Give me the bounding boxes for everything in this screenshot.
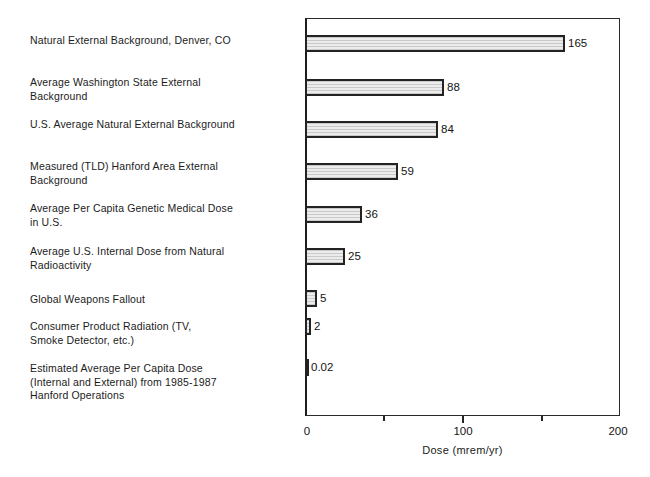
x-tick-label-0: 0 <box>304 424 310 438</box>
bar-7[interactable] <box>305 318 311 335</box>
bar-value-4: 36 <box>365 207 378 222</box>
bar-value-5: 25 <box>348 249 361 264</box>
category-label-7: Consumer Product Radiation (TV, Smoke De… <box>30 320 292 347</box>
bar-value-8: 0.02 <box>311 360 333 375</box>
bar-2[interactable] <box>305 121 438 138</box>
category-label-3: Measured (TLD) Hanford Area External Bac… <box>30 160 292 187</box>
x-axis-tick-labels: 0 100 200 <box>305 424 620 440</box>
category-label-2: U.S. Average Natural External Background <box>30 118 292 132</box>
x-tick-label-100: 100 <box>453 424 472 438</box>
bar-value-1: 88 <box>447 80 460 95</box>
bar-value-3: 59 <box>401 164 414 179</box>
category-label-5: Average U.S. Internal Dose from Natural … <box>30 245 292 272</box>
category-label-6: Global Weapons Fallout <box>30 293 292 307</box>
bar-6[interactable] <box>305 290 317 307</box>
x-axis-ticks <box>305 416 620 423</box>
bar-value-7: 2 <box>314 319 320 334</box>
bar-value-2: 84 <box>441 122 454 137</box>
x-tick-minor-50 <box>383 416 385 421</box>
bars-layer: 165 88 84 59 36 25 5 2 <box>305 18 620 416</box>
x-tick-minor-150 <box>541 416 543 421</box>
bar-0[interactable] <box>305 35 565 52</box>
category-label-1: Average Washington State External Backgr… <box>30 76 292 103</box>
bar-4[interactable] <box>305 206 362 223</box>
category-label-8: Estimated Average Per Capita Dose (Inter… <box>30 362 292 403</box>
bar-5[interactable] <box>305 248 345 265</box>
bar-8[interactable] <box>305 359 309 376</box>
bar-3[interactable] <box>305 163 398 180</box>
category-label-4: Average Per Capita Genetic Medical Dose … <box>30 202 292 229</box>
bar-1[interactable] <box>305 79 444 96</box>
category-label-0: Natural External Background, Denver, CO <box>30 34 292 48</box>
bar-value-6: 5 <box>320 291 326 306</box>
x-axis-title: Dose (mrem/yr) <box>305 444 620 456</box>
bar-chart-figure: Natural External Background, Denver, CO … <box>0 0 650 477</box>
x-tick-label-200: 200 <box>608 424 627 438</box>
x-tick-major-100 <box>462 416 464 423</box>
category-label-column: Natural External Background, Denver, CO … <box>0 0 300 420</box>
bar-value-0: 165 <box>568 36 587 51</box>
